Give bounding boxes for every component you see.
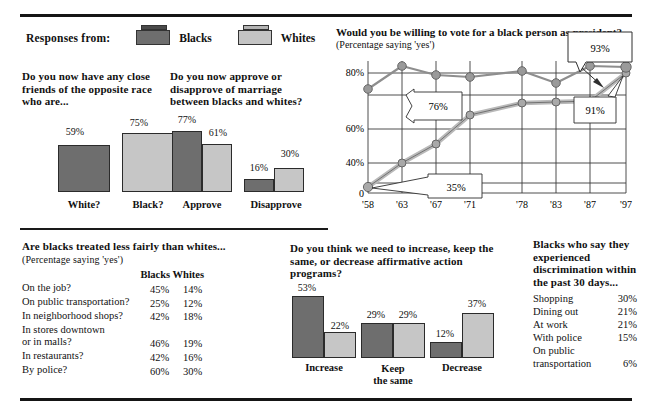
affirmative-value-whites-1: 29%	[391, 309, 425, 320]
fairness-row-whites-0: 14%	[172, 282, 204, 296]
fairness-row-whites-2: 18%	[172, 310, 204, 324]
xtick-5: '83	[550, 199, 562, 210]
fairness-row-label-3: In stores downtown or in malls?	[22, 324, 138, 350]
xtick-4: '78	[516, 199, 528, 210]
discrimination-value-2: 21%	[618, 318, 637, 331]
marriage-question: Do you now approve or disapprove of marr…	[170, 70, 320, 108]
friends-question: Do you now have any close friends of the…	[22, 70, 162, 108]
xtick-6: '87	[584, 199, 596, 210]
table-row: By police? 60% 30%	[22, 364, 204, 378]
discrimination-value-1: 21%	[618, 305, 637, 318]
affirmative-value-whites-0: 22%	[323, 320, 357, 331]
affirmative-value-blacks-2: 12%	[428, 328, 462, 339]
list-item: Shopping 30%	[533, 292, 637, 305]
ytick-0: 0	[359, 188, 364, 199]
table-row: On public transportation? 25% 12%	[22, 296, 204, 310]
marriage-bar-blacks-0	[172, 131, 202, 192]
friends-bar-chart: 59% White? 75% Black?	[22, 118, 172, 210]
gridlines-horizontal	[368, 73, 626, 193]
fairness-row-whites-5: 30%	[172, 364, 204, 378]
friends-bar-value-0: 59%	[58, 126, 92, 137]
affirmative-bar-whites-0	[324, 332, 356, 358]
affirmative-category-0: Increase	[287, 362, 361, 373]
xtick-7: '97	[620, 199, 632, 210]
affirmative-value-blacks-0: 53%	[290, 282, 324, 293]
discrimination-label-2: At work	[533, 318, 568, 331]
legend-swatch-whites	[238, 30, 272, 45]
xtick-1: '63	[396, 199, 408, 210]
ytick-60: 60%	[346, 123, 364, 134]
fairness-row-label-4: In restaurants?	[22, 350, 138, 364]
affirmative-bar-whites-2	[462, 313, 494, 358]
affirmative-bar-blacks-0	[292, 296, 324, 358]
fairness-row-label-1: On public transportation?	[22, 296, 138, 310]
mid-divider-rule	[20, 228, 328, 230]
ytick-40: 40%	[346, 157, 364, 168]
affirmative-value-blacks-1: 29%	[359, 309, 393, 320]
fairness-col-whites: Whites	[172, 269, 204, 282]
table-row: In restaurants? 42% 16%	[22, 350, 204, 364]
discrimination-value-3: 15%	[618, 331, 637, 344]
xtick-2: '67	[430, 199, 442, 210]
marriage-bar-value-whites-1: 30%	[273, 148, 307, 159]
table-row: In stores downtown or in malls? 46% 19%	[22, 324, 204, 350]
discrimination-label-1: Dining out	[533, 305, 578, 318]
fairness-row-label-5: By police?	[22, 364, 138, 378]
affirmative-bar-blacks-1	[361, 323, 393, 358]
fairness-row-label-0: On the job?	[22, 282, 138, 296]
table-row: On the job? 45% 14%	[22, 282, 204, 296]
fairness-row-blacks-2: 42%	[138, 310, 172, 324]
fairness-table: Blacks Whites On the job? 45% 14% On pub…	[22, 269, 204, 378]
fairness-row-blacks-3: 46%	[138, 324, 172, 350]
discrimination-block: Blacks who say they experienced discrimi…	[533, 238, 637, 370]
friends-bar-category-0: White?	[52, 199, 116, 210]
annotation-76: 76%	[406, 89, 462, 123]
fairness-row-blacks-0: 45%	[138, 282, 172, 296]
discrimination-label-0: Shopping	[533, 292, 573, 305]
affirmative-category-1: Keep the same	[356, 363, 430, 387]
legend: Responses from: Blacks Whites	[26, 30, 315, 45]
marriage-bar-blacks-1	[244, 179, 274, 192]
legend-item-blacks: Blacks	[136, 30, 212, 45]
fairness-row-blacks-4: 42%	[138, 350, 172, 364]
xtick-labels: '58 '63 '67 '71 '78 '83 '87 '97	[362, 199, 632, 210]
xtick-0: '58	[362, 199, 374, 210]
legend-swatch-blacks	[136, 30, 170, 45]
legend-item-whites: Whites	[238, 30, 316, 45]
table-header-row: Blacks Whites	[22, 269, 204, 282]
ytick-80: 80%	[346, 67, 364, 78]
fairness-row-whites-3: 19%	[172, 324, 204, 350]
fairness-question: Are blacks treated less fairly than whit…	[22, 240, 272, 266]
list-item: Dining out 21%	[533, 305, 637, 318]
legend-label-blacks: Blacks	[179, 32, 212, 44]
fairness-question-main: Are blacks treated less fairly than whit…	[22, 240, 226, 252]
fairness-row-blacks-1: 25%	[138, 296, 172, 310]
friends-bar-1	[122, 133, 174, 192]
affirmative-question: Do you think we need to increase, keep t…	[290, 242, 500, 280]
marriage-bar-category-1: Disapprove	[234, 199, 318, 210]
marriage-bar-whites-1	[274, 168, 304, 192]
list-item: With police 15%	[533, 331, 637, 344]
annotation-93-label: 93%	[590, 43, 610, 54]
bottom-divider-rule	[20, 398, 632, 401]
affirmative-bar-whites-1	[393, 323, 425, 358]
marriage-bar-value-blacks-1: 16%	[242, 162, 276, 173]
table-row: In neighborhood shops? 42% 18%	[22, 310, 204, 324]
discrimination-label-4: On public transportation	[533, 344, 591, 370]
annotation-93: 93%	[540, 28, 640, 90]
fairness-table-block: Are blacks treated less fairly than whit…	[22, 240, 302, 378]
marriage-bar-value-whites-0: 61%	[201, 127, 235, 138]
legend-prefix: Responses from:	[26, 32, 110, 44]
discrimination-value-4: 6%	[623, 357, 637, 370]
fairness-row-label-2: In neighborhood shops?	[22, 310, 138, 324]
marriage-bar-value-blacks-0: 77%	[170, 114, 204, 125]
list-item: On public transportation 6%	[533, 344, 637, 370]
legend-label-whites: Whites	[281, 32, 316, 44]
friends-bar-0	[58, 145, 110, 192]
fairness-row-blacks-5: 60%	[138, 364, 172, 378]
annotation-91-label: 91%	[585, 105, 605, 116]
annotation-76-label: 76%	[428, 101, 448, 112]
marriage-bar-whites-0	[202, 144, 232, 192]
marriage-bar-category-0: Approve	[166, 199, 238, 210]
fairness-row-whites-4: 16%	[172, 350, 204, 364]
